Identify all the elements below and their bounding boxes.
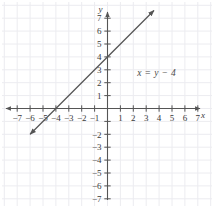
graph-canvas: −7−6−5−4−3−2−112345677654321−2−3−4−5−6−7… bbox=[0, 0, 214, 208]
x-tick-label: −1 bbox=[90, 113, 100, 123]
y-axis-label: y bbox=[98, 4, 103, 14]
y-tick-label: 1 bbox=[97, 91, 102, 101]
y-tick-label: −6 bbox=[92, 181, 102, 191]
y-tick-label: −2 bbox=[92, 130, 102, 140]
x-tick-label: 3 bbox=[144, 113, 149, 123]
x-tick-label: 1 bbox=[118, 113, 123, 123]
y-tick-label: 6 bbox=[97, 26, 102, 36]
y-tick-label: −3 bbox=[92, 142, 102, 152]
y-tick-label: 2 bbox=[97, 78, 102, 88]
y-tick-label: 4 bbox=[97, 52, 102, 62]
x-tick-label: 7 bbox=[196, 113, 201, 123]
y-tick-label: −4 bbox=[92, 155, 102, 165]
x-tick-label: −3 bbox=[64, 113, 74, 123]
x-tick-label: 6 bbox=[183, 113, 188, 123]
y-tick-label: 5 bbox=[97, 39, 102, 49]
y-tick-label: 7 bbox=[97, 13, 102, 23]
x-axis-label: x bbox=[200, 110, 205, 120]
equation-annotation: x = y − 4 bbox=[136, 68, 176, 78]
coordinate-plane-figure: −7−6−5−4−3−2−112345677654321−2−3−4−5−6−7… bbox=[0, 0, 214, 208]
axes bbox=[6, 12, 200, 200]
axis-name-labels: xy bbox=[98, 4, 206, 120]
x-tick-label: −2 bbox=[77, 113, 87, 123]
y-tick-label: −7 bbox=[92, 194, 102, 204]
x-tick-label: 4 bbox=[157, 113, 162, 123]
x-tick-label: 5 bbox=[170, 113, 175, 123]
x-tick-label: −6 bbox=[25, 113, 35, 123]
equation-label: x = y − 4 bbox=[136, 68, 176, 78]
y-tick-label: −5 bbox=[92, 168, 102, 178]
x-tick-label: 2 bbox=[131, 113, 136, 123]
x-tick-label: −7 bbox=[12, 113, 22, 123]
x-tick-label: −4 bbox=[51, 113, 61, 123]
